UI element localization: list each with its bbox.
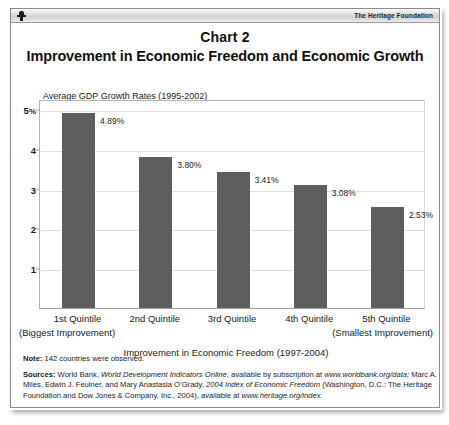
sources-italic-1: World Development Indicators Online [101, 370, 227, 379]
x-axis-tick-label: 2nd Quintile [129, 313, 180, 324]
bar-value-label: 4.89% [100, 116, 124, 126]
bar-value-label: 2.53% [409, 210, 433, 220]
title-block: Chart 2 Improvement in Economic Freedom … [11, 29, 439, 64]
x-axis-tick-label: 3rd Quintile [208, 313, 257, 324]
gridline [40, 111, 424, 112]
bar [62, 113, 95, 308]
chart-number-label: Chart 2 [11, 29, 439, 45]
scanned-page: The Heritage Foundation Chart 2 Improvem… [0, 0, 449, 425]
bar-value-label: 3.80% [177, 160, 201, 170]
masthead-bar: The Heritage Foundation [11, 9, 439, 23]
gridline [40, 151, 424, 152]
x-axis-sublabel-first: (Biggest Improvement) [19, 327, 115, 338]
x-axis-sublabel-last: (Smallest Improvement) [332, 327, 433, 338]
sources-line: Sources: World Bank, World Development I… [23, 370, 443, 402]
y-axis-tick-label: 5% [24, 104, 36, 115]
y-axis: 5%4321 [11, 87, 39, 310]
x-axis-tick-label: 4th Quintile [285, 313, 333, 324]
note-label: Note: [23, 354, 42, 363]
sources-text-1: World Bank, [56, 370, 101, 379]
page-title: Improvement in Economic Freedom and Econ… [11, 48, 439, 64]
document-frame: The Heritage Foundation Chart 2 Improvem… [10, 8, 440, 408]
plot-area: 4.89%3.80%3.41%3.08%2.53% [39, 100, 425, 309]
y-axis-unit: % [29, 106, 36, 115]
bar [139, 157, 172, 308]
sources-link-worldbank: www.worldbank.org/data; [324, 370, 409, 379]
note-text: 142 countries were observed. [42, 354, 144, 363]
x-axis-tick-label: 1st Quintile [54, 313, 102, 324]
bar-chart: 5%4321 Average GDP Growth Rates (1995-20… [11, 87, 441, 327]
heritage-torch-icon [17, 11, 26, 21]
bar-value-label: 3.41% [255, 175, 279, 185]
x-axis-tick-label: 5th Quintile [362, 313, 410, 324]
bar [294, 185, 327, 308]
bar [217, 172, 250, 308]
note-line: Note: 142 countries were observed. [23, 354, 443, 365]
sources-link-heritage: www.heritage.org/index. [242, 391, 323, 400]
masthead-brand-label: The Heritage Foundation [354, 11, 433, 21]
sources-label: Sources: [23, 370, 56, 379]
footnotes: Note: 142 countries were observed. Sourc… [23, 354, 443, 401]
bar [371, 207, 404, 308]
sources-italic-3: 2004 Index of Economic Freedom [206, 380, 320, 389]
sources-text-2: , available by subscription at [227, 370, 325, 379]
bar-value-label: 3.08% [332, 188, 356, 198]
